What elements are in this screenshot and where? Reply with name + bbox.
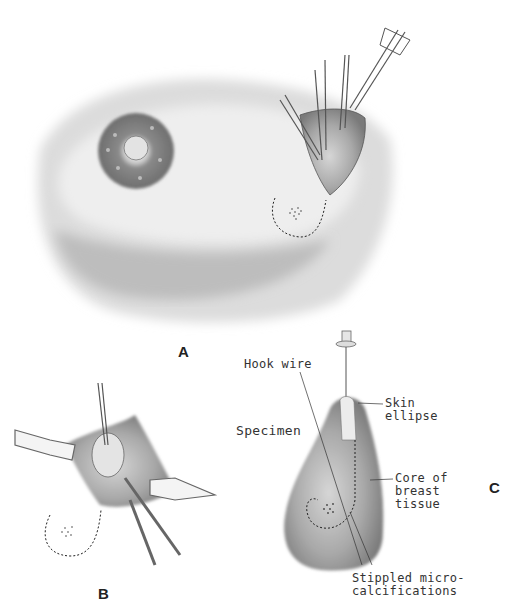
nipple bbox=[124, 136, 148, 160]
callout-hook-wire: Hook wire bbox=[244, 358, 312, 371]
callout-stippled-line2: calcifications bbox=[352, 585, 465, 598]
callout-core-breast-tissue: Core of breast tissue bbox=[395, 472, 448, 511]
callout-skin-ellipse-line2: ellipse bbox=[385, 410, 438, 423]
callout-core-line3: tissue bbox=[395, 498, 448, 511]
panel-label-c: C bbox=[489, 479, 500, 496]
skin-ellipse bbox=[340, 396, 356, 440]
surgical-illustration: A B C Hook wire Specimen Skin ellipse Co… bbox=[0, 0, 517, 615]
panel-a-breast bbox=[38, 28, 410, 322]
callout-skin-ellipse: Skin ellipse bbox=[385, 397, 438, 423]
panel-b-excision bbox=[15, 383, 215, 565]
callout-stippled-microcalcifications: Stippled micro- calcifications bbox=[352, 572, 465, 598]
callout-specimen: Specimen bbox=[236, 424, 301, 437]
panel-label-b: B bbox=[98, 585, 109, 602]
panel-label-a: A bbox=[178, 343, 189, 360]
illustration-artwork bbox=[0, 0, 517, 615]
